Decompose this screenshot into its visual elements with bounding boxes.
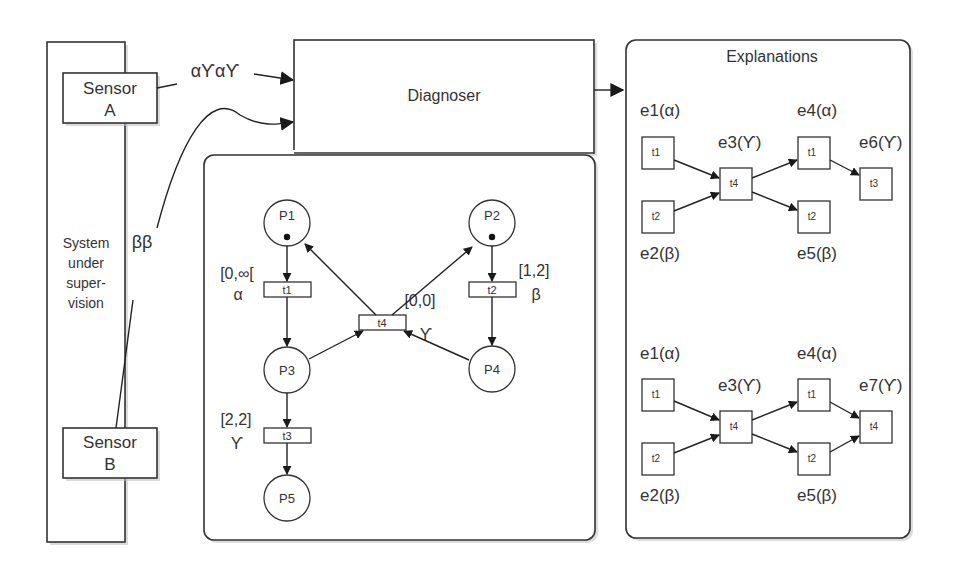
place-p1-label: P1 [279, 208, 295, 223]
place-p5: P5 [264, 475, 310, 521]
transition-t3-event: ϒ [231, 435, 244, 452]
petri-net-panel [204, 150, 598, 543]
place-p5-label: P5 [279, 491, 295, 506]
transition-t3-interval: [2,2] [220, 411, 251, 428]
system-label-line-4: vision [68, 295, 104, 311]
event-e4-label: e4(α) [797, 344, 837, 363]
diagnosis-architecture-diagram: System under super- vision Sensor A Sens… [0, 0, 956, 569]
event-e4-label: e4(α) [797, 101, 837, 120]
event-e5-transition: t2 [808, 453, 817, 464]
event-e7-transition: t4 [870, 421, 879, 432]
sensor-a-observation: αϒαϒ [191, 61, 240, 81]
diagnoser: Diagnoser [294, 40, 597, 156]
event-e3-transition: t4 [730, 421, 739, 432]
transition-t2-event: β [531, 286, 540, 303]
transition-t3-label: t3 [282, 430, 291, 442]
transition-t4-label: t4 [377, 317, 386, 329]
token-icon [284, 234, 290, 240]
sensor-b-line-1: Sensor [83, 433, 137, 452]
event-e2-label: e2(β) [640, 244, 680, 263]
event-e4-transition: t1 [808, 389, 817, 400]
event-e2-label: e2(β) [640, 486, 680, 505]
event-e3-transition: t4 [730, 178, 739, 189]
system-label-line-3: super- [66, 275, 106, 291]
event-e6-transition: t3 [870, 178, 879, 189]
transition-t2-interval: [1,2] [518, 262, 549, 279]
token-icon [489, 234, 495, 240]
transition-t2-label: t2 [487, 284, 496, 296]
arrow-sensor-a-to-diagnoser [254, 74, 293, 80]
sensor-a-line-2: A [104, 101, 116, 120]
place-p2-label: P2 [484, 208, 500, 223]
transition-t1-interval: [0,∞[ [220, 265, 254, 282]
event-e4-transition: t1 [808, 147, 817, 158]
diagnoser-title: Diagnoser [408, 87, 482, 104]
event-e5-transition: t2 [808, 211, 817, 222]
sensor-b-line-2: B [104, 455, 115, 474]
system-label-line-1: System [63, 235, 110, 251]
event-e3-label: e3(ϒ) [718, 376, 761, 395]
event-e1-transition: t1 [652, 389, 661, 400]
place-p3-label: P3 [279, 363, 295, 378]
place-p4: P4 [469, 346, 515, 392]
event-e7-label: e7(ϒ) [859, 376, 902, 395]
event-e1-label: e1(α) [640, 101, 680, 120]
place-p1: P1 [264, 200, 310, 246]
place-p2: P2 [469, 200, 515, 246]
sensor-b: Sensor B [63, 428, 160, 481]
event-e5-label: e5(β) [797, 244, 837, 263]
sensor-a: Sensor A [63, 73, 160, 126]
transition-t1-event: α [233, 286, 242, 303]
event-e1-transition: t1 [652, 147, 661, 158]
event-e2-transition: t2 [652, 211, 661, 222]
event-e6-label: e6(ϒ) [859, 133, 902, 152]
sensor-b-observation: ββ [132, 232, 153, 252]
explanations-title: Explanations [726, 48, 818, 65]
event-e2-transition: t2 [652, 453, 661, 464]
transition-t1-label: t1 [282, 284, 291, 296]
sensor-a-line-1: Sensor [83, 79, 137, 98]
event-e5-label: e5(β) [797, 486, 837, 505]
place-p3: P3 [264, 347, 310, 393]
event-e3-label: e3(ϒ) [718, 133, 761, 152]
event-e1-label: e1(α) [640, 344, 680, 363]
system-label-line-2: under [68, 255, 104, 271]
place-p4-label: P4 [484, 362, 500, 377]
